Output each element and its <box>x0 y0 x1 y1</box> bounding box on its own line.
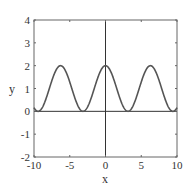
x-tick-label: 0 <box>103 159 109 171</box>
y-tick-label: -2 <box>21 151 30 163</box>
y-tick-label: 0 <box>25 105 31 117</box>
y-tick-label: -1 <box>21 128 30 140</box>
y-tick-label: 2 <box>25 60 31 72</box>
y-tick-label: 1 <box>25 83 31 95</box>
chart: -10-50510 -2-101234 x y <box>0 0 189 186</box>
x-tick-label: 5 <box>139 159 145 171</box>
plot-area <box>34 20 177 157</box>
x-axis-label: x <box>102 172 108 186</box>
y-tick-label: 4 <box>25 14 31 26</box>
x-tick-label: -5 <box>65 159 75 171</box>
y-tick-label: 3 <box>25 37 31 49</box>
y-axis-label: y <box>9 82 15 96</box>
x-axis-ticks: -10-50510 <box>27 20 183 171</box>
x-tick-label: 10 <box>172 159 184 171</box>
y-axis-ticks: -2-101234 <box>21 14 177 163</box>
